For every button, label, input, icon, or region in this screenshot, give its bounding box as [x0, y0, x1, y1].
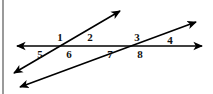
angle-label-8: 8: [137, 49, 143, 60]
geometry-figure: 1 2 3 4 5 6 7 8: [0, 0, 213, 94]
angle-label-4: 4: [167, 35, 173, 46]
angle-label-2: 2: [87, 32, 93, 43]
transversal-steep: [14, 11, 120, 73]
angle-label-3: 3: [134, 32, 140, 43]
angle-label-6: 6: [66, 49, 72, 60]
angle-label-1: 1: [57, 32, 63, 43]
angle-label-7: 7: [107, 49, 113, 60]
angle-label-5: 5: [37, 49, 43, 60]
